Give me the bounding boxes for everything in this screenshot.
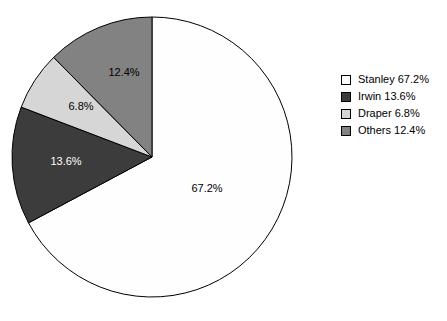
pie-slice-label-others: 12.4% [108, 66, 139, 78]
chart-legend: Stanley 67.2%Irwin 13.6%Draper 6.8%Other… [341, 71, 447, 139]
legend-item-label: Draper 6.8% [358, 108, 420, 119]
legend-item-label: Others 12.4% [358, 125, 425, 136]
legend-item: Draper 6.8% [341, 105, 447, 122]
pie-chart-canvas: 67.2%13.6%6.8%12.4% [0, 0, 447, 321]
legend-item: Others 12.4% [341, 122, 447, 139]
pie-chart-figure: 67.2%13.6%6.8%12.4% Stanley 67.2%Irwin 1… [0, 0, 447, 321]
pie-slice-label-draper: 6.8% [68, 100, 93, 112]
legend-swatch-icon [341, 75, 351, 85]
legend-swatch-icon [341, 126, 351, 136]
legend-item: Stanley 67.2% [341, 71, 447, 88]
pie-slice-label-irwin: 13.6% [50, 155, 81, 167]
legend-item-label: Irwin 13.6% [358, 91, 415, 102]
legend-item-label: Stanley 67.2% [358, 74, 429, 85]
legend-swatch-icon [341, 109, 351, 119]
legend-item: Irwin 13.6% [341, 88, 447, 105]
legend-swatch-icon [341, 92, 351, 102]
pie-slice-label-stanley: 67.2% [191, 182, 222, 194]
